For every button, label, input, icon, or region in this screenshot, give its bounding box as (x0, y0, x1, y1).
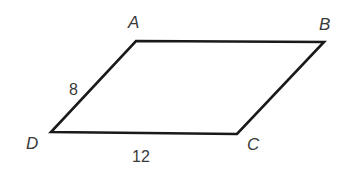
parallelogram-diagram: A B C D 8 12 (0, 0, 347, 184)
side-length-dc: 12 (132, 148, 150, 165)
vertex-label-c: C (247, 135, 260, 154)
parallelogram-abcd (51, 41, 324, 134)
side-length-ad: 8 (69, 81, 78, 98)
vertex-label-d: D (26, 134, 38, 153)
vertex-label-a: A (127, 13, 139, 32)
vertex-label-b: B (319, 15, 330, 34)
